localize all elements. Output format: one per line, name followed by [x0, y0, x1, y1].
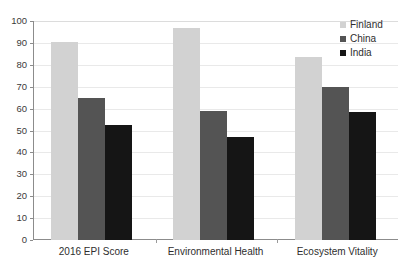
y-axis: 1009080706050403020100	[0, 0, 33, 267]
bar-india-0	[105, 125, 132, 240]
y-tick-label: 50	[16, 126, 27, 136]
y-tick-label: 30	[16, 170, 27, 180]
bar-finland-0	[51, 42, 78, 240]
x-axis-label: Ecosystem Vitality	[297, 246, 378, 258]
y-tick-label: 90	[16, 38, 27, 48]
legend-swatch-finland	[340, 22, 346, 28]
bar-india-2	[349, 112, 376, 240]
y-tick-label: 80	[16, 60, 27, 70]
y-tick-label: 70	[16, 82, 27, 92]
bar-china-0	[78, 98, 105, 240]
y-tick-label: 10	[16, 213, 27, 223]
x-axis-label: Environmental Health	[168, 246, 264, 258]
bar-china-2	[322, 87, 349, 240]
legend-item-india: India	[340, 46, 408, 59]
x-axis-labels: 2016 EPI ScoreEnvironmental HealthEcosys…	[33, 246, 398, 264]
legend-item-finland: Finland	[340, 18, 408, 31]
y-tick-label: 60	[16, 104, 27, 114]
legend-item-china: China	[340, 32, 408, 45]
legend-label-india: India	[350, 47, 372, 58]
y-tick-label: 20	[16, 191, 27, 201]
legend-label-finland: Finland	[350, 19, 383, 30]
bar-chart: 1009080706050403020100 2016 EPI ScoreEnv…	[0, 0, 410, 267]
legend-swatch-india	[340, 50, 346, 56]
y-tick-mark	[30, 240, 33, 241]
y-tick-label: 100	[11, 16, 27, 26]
bar-india-1	[227, 137, 254, 240]
bar-china-1	[200, 111, 227, 240]
bar-finland-2	[295, 57, 322, 240]
legend-label-china: China	[350, 33, 376, 44]
bar-finland-1	[173, 28, 200, 240]
legend: Finland China India	[340, 18, 408, 60]
x-axis-label: 2016 EPI Score	[59, 246, 129, 258]
y-tick-label: 0	[22, 235, 27, 245]
y-tick-label: 40	[16, 148, 27, 158]
legend-swatch-china	[340, 36, 346, 42]
